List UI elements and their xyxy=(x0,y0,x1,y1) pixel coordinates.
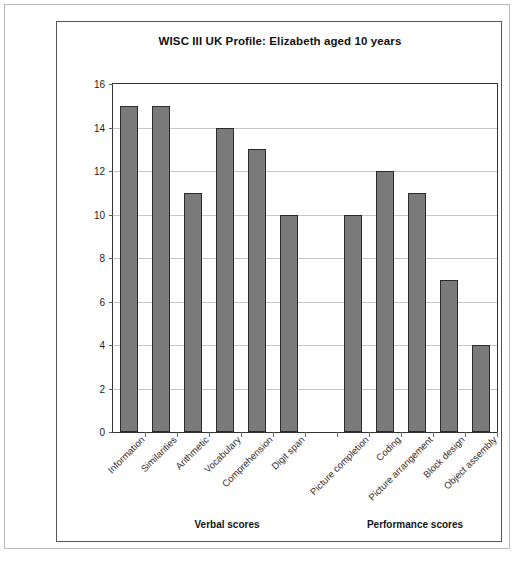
y-tick-label: 0 xyxy=(99,427,105,438)
y-tick-label: 6 xyxy=(99,296,105,307)
y-tick-label: 8 xyxy=(99,253,105,264)
y-tick-label: 4 xyxy=(99,340,105,351)
figure-caption-cropped xyxy=(30,552,490,561)
figure-outer-border: WISC III UK Profile: Elizabeth aged 10 y… xyxy=(4,4,510,549)
chart-title: WISC III UK Profile: Elizabeth aged 10 y… xyxy=(57,35,502,47)
y-tick-label: 10 xyxy=(94,209,105,220)
figure-page: WISC III UK Profile: Elizabeth aged 10 y… xyxy=(0,0,514,561)
bar xyxy=(408,193,426,432)
bar xyxy=(440,280,458,432)
y-tick-label: 12 xyxy=(94,166,105,177)
x-tick-label: Digit span xyxy=(269,434,307,472)
y-tick-label: 16 xyxy=(94,79,105,90)
y-tick-label: 2 xyxy=(99,383,105,394)
bar xyxy=(280,215,298,433)
bar-series xyxy=(113,84,497,432)
x-tick-label: Coding xyxy=(374,434,403,463)
chart-container: WISC III UK Profile: Elizabeth aged 10 y… xyxy=(56,21,502,542)
bar xyxy=(216,128,234,433)
bar xyxy=(152,106,170,432)
plot-area: 0246810121416 xyxy=(112,83,498,433)
bar xyxy=(120,106,138,432)
bar xyxy=(248,149,266,432)
bar xyxy=(344,215,362,433)
x-tick-label: Picture completion xyxy=(308,434,371,497)
bar xyxy=(472,345,490,432)
bar xyxy=(184,193,202,432)
bar xyxy=(376,171,394,432)
group-label-performance-scores: Performance scores xyxy=(325,519,502,530)
y-tick-mark xyxy=(109,432,113,433)
group-label-verbal-scores: Verbal scores xyxy=(142,519,312,530)
y-tick-label: 14 xyxy=(94,122,105,133)
x-axis-labels: InformationSimilaritiesArithmeticVocabul… xyxy=(112,434,502,529)
